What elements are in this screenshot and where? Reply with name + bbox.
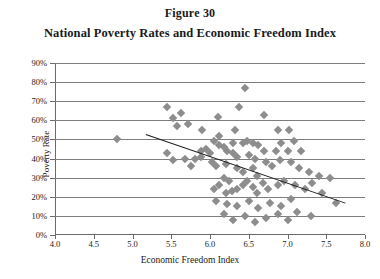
x-tick-mark: [94, 235, 95, 239]
y-tick-mark: [50, 139, 55, 140]
x-tick-mark: [171, 235, 172, 239]
y-tick-mark: [50, 82, 55, 83]
gridline: [55, 101, 365, 102]
x-tick-label: 5.0: [127, 239, 138, 249]
x-axis-title: Economic Freedom Index: [0, 255, 380, 265]
y-tick-mark: [50, 159, 55, 160]
x-tick-label: 6.0: [205, 239, 216, 249]
x-tick-mark: [55, 235, 56, 239]
figure-container: Figure 30 National Poverty Rates and Eco…: [0, 0, 380, 279]
x-tick-label: 5.5: [166, 239, 177, 249]
x-tick-mark: [249, 235, 250, 239]
x-tick-mark: [365, 235, 366, 239]
y-tick-mark: [50, 197, 55, 198]
x-tick-mark: [210, 235, 211, 239]
gridline: [55, 197, 365, 198]
plot-area: [55, 63, 365, 235]
x-tick-mark: [326, 235, 327, 239]
x-tick-mark: [133, 235, 134, 239]
gridline: [55, 63, 365, 64]
y-tick-mark: [50, 235, 55, 236]
x-tick-label: 8.0: [360, 239, 371, 249]
x-tick-mark: [288, 235, 289, 239]
y-tick-mark: [50, 63, 55, 64]
gridline: [55, 82, 365, 83]
x-tick-label: 7.0: [282, 239, 293, 249]
y-tick-mark: [50, 101, 55, 102]
y-tick-mark: [50, 178, 55, 179]
y-tick-mark: [50, 216, 55, 217]
x-tick-label: 4.5: [88, 239, 99, 249]
gridline: [55, 216, 365, 217]
gridline: [55, 120, 365, 121]
y-tick-mark: [50, 120, 55, 121]
x-tick-label: 6.5: [243, 239, 254, 249]
x-tick-label: 7.5: [321, 239, 332, 249]
x-tick-label: 4.0: [50, 239, 61, 249]
